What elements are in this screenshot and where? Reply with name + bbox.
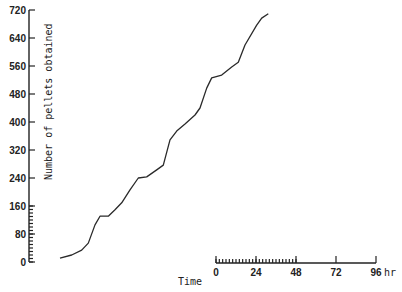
x-axis-title: Time xyxy=(178,276,202,287)
time-tick-label: 0 xyxy=(213,267,219,278)
y-tick-label: 560 xyxy=(9,61,26,72)
y-axis-title: Number of pellets obtained xyxy=(43,23,54,180)
y-tick-label: 320 xyxy=(9,145,26,156)
time-scale-bar: 024487296 xyxy=(213,256,382,278)
y-axis: 080160240320400480560640720 xyxy=(9,5,35,268)
chart: 080160240320400480560640720 Number of pe… xyxy=(0,0,402,292)
time-tick-label: 24 xyxy=(250,267,262,278)
y-tick-label: 160 xyxy=(9,201,26,212)
y-tick-label: 0 xyxy=(20,257,26,268)
time-tick-label: 48 xyxy=(290,267,302,278)
time-tick-label: 96 xyxy=(370,267,382,278)
cumulative-record-line xyxy=(60,14,268,258)
y-tick-label: 240 xyxy=(9,173,26,184)
y-tick-label: 80 xyxy=(15,229,27,240)
time-tick-label: 72 xyxy=(330,267,342,278)
y-tick-label: 720 xyxy=(9,5,26,16)
y-tick-label: 640 xyxy=(9,33,26,44)
y-tick-label: 400 xyxy=(9,117,26,128)
time-unit-label: hr xyxy=(384,267,396,278)
y-tick-label: 480 xyxy=(9,89,26,100)
